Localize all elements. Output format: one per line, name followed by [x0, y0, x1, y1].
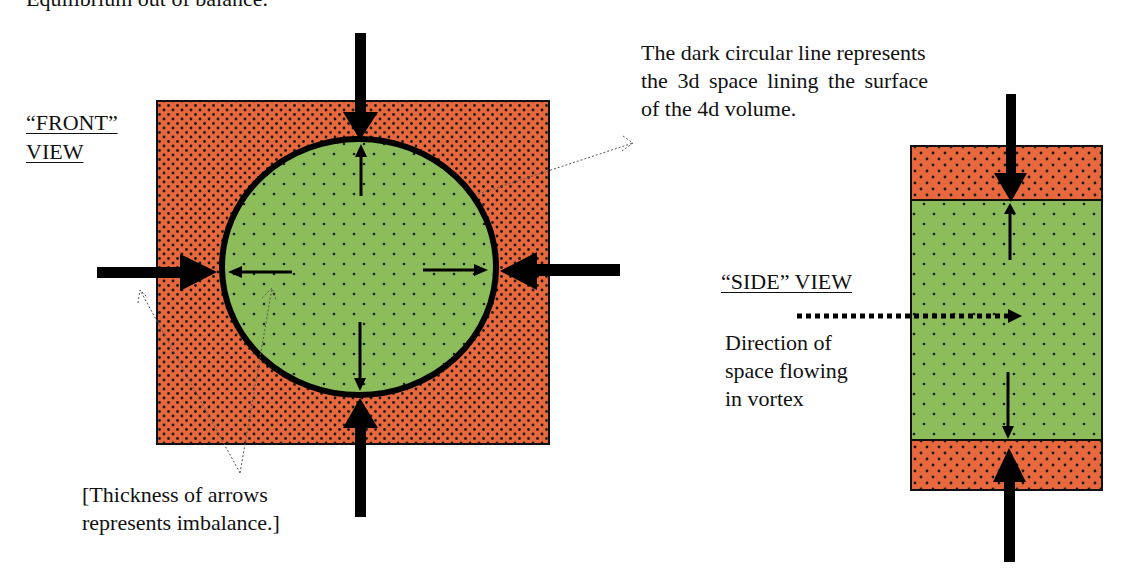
flow-label-1: Direction of [725, 330, 832, 356]
arrow-thickness-note-2: represents imbalance.] [82, 510, 280, 536]
front-view-label: “FRONT” [26, 110, 118, 136]
side-view [797, 94, 1102, 562]
boundary-description-3: of the 4d volume. [641, 96, 796, 122]
front-view [97, 33, 633, 517]
flow-label-2: space flowing [725, 358, 848, 384]
diagram-title: Equilibrium out of balance. [26, 0, 268, 12]
arrow-thickness-note-1: [Thickness of arrows [82, 482, 268, 508]
side-view-label: “SIDE” VIEW [721, 269, 852, 295]
boundary-description-1: The dark circular line represents [641, 40, 926, 66]
boundary-description-2: the 3d space lining the surface [641, 68, 928, 94]
front-view-label-2: VIEW [26, 139, 83, 165]
flow-label-3: in vortex [725, 386, 804, 412]
